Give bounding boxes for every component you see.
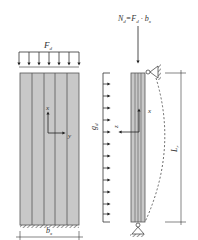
right-panel: Nd=Fd · bx gd	[89, 14, 186, 237]
wall-panel	[20, 73, 79, 225]
bottom-pin-support	[130, 223, 145, 237]
axial-force-label: Nd=Fd · bx	[117, 14, 152, 24]
structural-diagram: Fd x y	[0, 0, 198, 240]
distributed-load-arrows	[19, 52, 79, 67]
distributed-load-label: gd	[89, 123, 99, 130]
left-panel: Fd x y	[16, 40, 83, 240]
deflected-shape	[145, 78, 165, 222]
length-dimension: Lr	[165, 70, 186, 225]
width-dimension: bx	[16, 226, 83, 240]
axis-z-label: z	[112, 125, 120, 129]
top-pin-support	[146, 64, 161, 80]
lateral-load-arrows: gd	[89, 73, 110, 222]
axis-x-label-right: x	[147, 107, 152, 115]
length-label: Lr	[170, 146, 180, 153]
load-label: Fd	[43, 40, 53, 51]
column-section	[131, 73, 145, 222]
